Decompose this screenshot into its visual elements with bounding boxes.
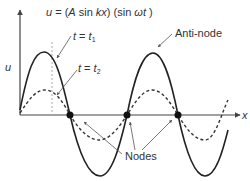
nodes-pointer-3 bbox=[142, 120, 172, 150]
node-point bbox=[67, 112, 74, 119]
label-t2: t = t2 bbox=[78, 62, 101, 75]
x-axis-label: x bbox=[241, 109, 248, 121]
pointer-t1 bbox=[57, 36, 71, 58]
label-t1: t = t1 bbox=[73, 30, 96, 43]
standing-wave-diagram: u = (A sin kx) (sin ωt ) u x t = t1 t = … bbox=[0, 0, 250, 181]
nodes-pointer-1 bbox=[84, 122, 122, 154]
equation-label: u = (A sin kx) (sin ωt ) bbox=[46, 6, 153, 18]
antinode-label: Anti-node bbox=[175, 27, 222, 39]
y-axis-label: u bbox=[5, 61, 11, 73]
nodes-label: Nodes bbox=[125, 150, 157, 162]
antinode-pointer bbox=[158, 34, 172, 47]
node-point bbox=[175, 112, 182, 119]
nodes-pointer-2 bbox=[130, 122, 135, 150]
node-point bbox=[124, 112, 131, 119]
